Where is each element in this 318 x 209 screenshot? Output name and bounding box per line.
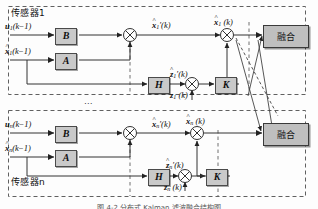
label-z1-measurement: z1 (k): [170, 91, 188, 100]
label-x1-estimate: ^x1 (k): [214, 18, 233, 27]
block-A-sensor1: A: [55, 53, 77, 70]
label-un-prev: un(k−1): [5, 120, 31, 129]
label-xn-estimate: ^xn (k): [186, 117, 205, 126]
sensor-ellipsis: ⋯: [84, 99, 93, 108]
block-H-sensor1: H: [148, 77, 170, 94]
label-x1-predicted: ^x1′(k): [152, 21, 171, 30]
label-xn-predicted: ^xn′(k): [152, 120, 171, 129]
block-K-sensor1: K: [215, 77, 237, 94]
label-zn-measurement: zn (k): [164, 183, 182, 192]
block-A-sensorN: A: [55, 150, 77, 167]
sensorN-group-label: 传感器n: [11, 178, 45, 187]
summing-junction-sensor1-state-predict: [124, 29, 137, 42]
summing-junction-sensor1-state-update: [221, 29, 234, 42]
label-z1-predicted: ^z1′(k): [170, 70, 188, 79]
crosslink-fusion-feed-bottom: [236, 40, 261, 131]
sensor1-group-label: 传感器1: [11, 9, 45, 18]
block-K-sensorN: K: [206, 169, 228, 186]
crosslink-fusion-feed-top: [248, 36, 262, 96]
figure-caption: 图 4-2 分布式 Kalman 滤波融合结构图: [0, 202, 318, 209]
figure-canvas: B A H K B A H K 融合 融合 传感器1 传感器n ⋯ u1(k−1…: [0, 0, 318, 209]
block-B-sensor1: B: [55, 28, 77, 45]
label-zn-predicted: ^zn′(k): [166, 161, 184, 170]
label-u1-prev: u1(k−1): [5, 22, 31, 31]
summing-junction-sensorN-state-update: [191, 127, 204, 140]
label-xn-prev: ^xn(k−1): [5, 144, 31, 153]
fusion-block-top: 融合: [263, 25, 309, 48]
label-x1-prev: ^x1(k−1): [5, 47, 31, 56]
block-B-sensorN: B: [55, 126, 77, 143]
summing-junction-sensorN-state-predict: [124, 127, 137, 140]
fusion-block-bottom: 融合: [263, 123, 309, 146]
summing-junction-sensorN-innovation: [179, 170, 192, 183]
crosslink-sensor1-to-fusion-bottom: [236, 38, 278, 116]
summing-junction-sensor1-innovation: [186, 78, 199, 91]
